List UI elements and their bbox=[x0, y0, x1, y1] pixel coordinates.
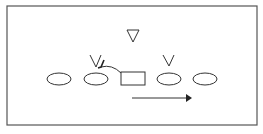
player-ellipse bbox=[157, 73, 181, 85]
formation-diagram bbox=[0, 0, 263, 134]
player-ellipse bbox=[47, 73, 71, 85]
triangle-marker bbox=[127, 30, 139, 42]
v-marker-defender-left bbox=[90, 55, 101, 67]
center-box bbox=[121, 72, 145, 85]
diagram-border bbox=[7, 6, 257, 125]
v-marker-defender-right bbox=[163, 55, 174, 66]
player-ellipse bbox=[193, 73, 217, 85]
player-ellipse bbox=[84, 73, 108, 85]
curved-route-line bbox=[101, 66, 121, 73]
arrow-head-icon bbox=[186, 94, 192, 102]
